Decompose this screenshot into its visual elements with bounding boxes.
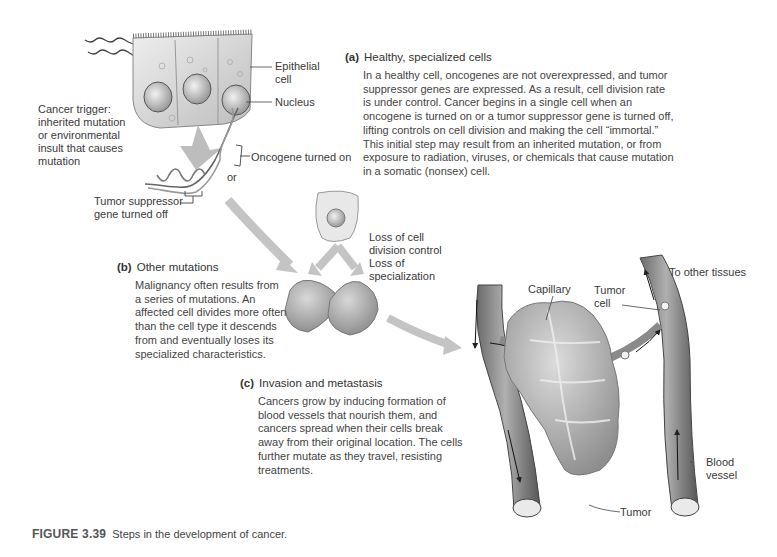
figure-caption: FIGURE 3.39Steps in the development of c… [32, 527, 287, 541]
arrow-down-icon [180, 125, 222, 170]
panel-a: (a)Healthy, specialized cells In a healt… [345, 50, 675, 179]
blood-vessel-label: Blood vessel [706, 456, 746, 482]
tumor-label: Tumor [620, 506, 651, 519]
arrow-curve-icon [228, 200, 290, 265]
panel-b-title-text: Other mutations [137, 261, 219, 273]
panel-c-body: Cancers grow by inducing formation of bl… [258, 395, 470, 477]
panel-b-letter: (b) [117, 261, 132, 273]
cancer-trigger-label: Cancer trigger: inherited mutation or en… [38, 103, 130, 168]
panel-c-title-text: Invasion and metastasis [259, 377, 382, 389]
epithelial-cell-label: Epithelial cell [275, 60, 335, 86]
to-other-tissues-label: To other tissues [669, 266, 746, 279]
panel-c-letter: (c) [240, 377, 254, 389]
panel-a-body: In a healthy cell, oncogenes are not ove… [363, 69, 675, 179]
panel-b-body: Malignancy often results from a series o… [135, 279, 287, 361]
nucleus-label: Nucleus [275, 96, 315, 109]
loss-division-control-label: Loss of cell division control [369, 231, 449, 257]
tumor-cell-label: Tumor cell [594, 284, 626, 310]
panel-b-title: (b)Other mutations [117, 260, 287, 274]
panel-a-letter: (a) [345, 51, 359, 63]
panel-c: (c)Invasion and metastasis Cancers grow … [240, 376, 470, 477]
loss-specialization-label: Loss of specialization [369, 257, 449, 283]
oncogene-label: Oncogene turned on [251, 151, 351, 164]
capillary-label: Capillary [528, 283, 571, 296]
panel-c-title: (c)Invasion and metastasis [240, 376, 470, 390]
figure-caption-text: Steps in the development of cancer. [112, 528, 287, 540]
panel-a-title-text: Healthy, specialized cells [364, 51, 492, 63]
panel-b: (b)Other mutations Malignancy often resu… [117, 260, 287, 361]
or-label: or [227, 171, 237, 184]
dividing-cells-drawing [285, 280, 378, 335]
figure-number: FIGURE 3.39 [32, 527, 106, 541]
tumor-suppressor-label: Tumor suppressor gene turned off [94, 195, 186, 221]
tumor-cell-drawing [621, 351, 629, 359]
epithelial-cells-drawing [133, 32, 252, 128]
panel-a-title: (a)Healthy, specialized cells [345, 50, 675, 64]
